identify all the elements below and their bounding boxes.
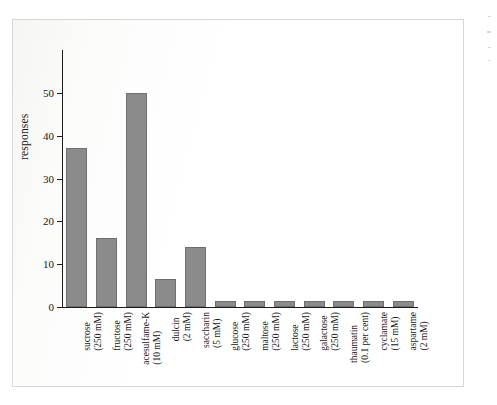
- category-dose: (250 mM): [330, 312, 341, 351]
- category-name: acesulfame-K: [141, 312, 152, 365]
- y-axis-tick-label: 20: [43, 216, 54, 227]
- category-dose: (250 mM): [241, 312, 252, 351]
- x-axis-category-label: aspartame(2 mM): [408, 312, 429, 351]
- bar: [304, 301, 325, 307]
- bar: [333, 301, 354, 307]
- category-dose: (2 mM): [419, 312, 430, 351]
- category-name: galactose: [319, 312, 330, 351]
- x-axis-category-label: saccharin(5 mM): [201, 312, 222, 348]
- x-axis-line: [62, 307, 418, 308]
- category-dose: (2 mM): [181, 312, 192, 341]
- category-dose: (250 mM): [300, 312, 311, 351]
- y-axis-tick-mark: [57, 136, 62, 137]
- y-axis-tick-label: 30: [43, 173, 54, 184]
- x-axis-category-label: acesulfame-K(10 mM): [141, 312, 162, 365]
- y-axis-tick-mark: [57, 179, 62, 180]
- y-axis-tick-mark: [57, 307, 62, 308]
- bar: [185, 247, 206, 307]
- y-axis-tick-label: 0: [49, 302, 55, 313]
- category-name: fructose: [112, 312, 123, 351]
- y-axis-tick-label: 10: [43, 259, 54, 270]
- category-dose: (250 mM): [270, 312, 281, 351]
- bar: [126, 93, 147, 307]
- scan-artifact-4: [488, 60, 490, 61]
- x-axis-category-label: lactose(250 mM): [290, 312, 311, 351]
- bar: [66, 148, 87, 307]
- bar: [274, 301, 295, 307]
- x-axis-category-label: thaumatin(0.1 per cent): [349, 312, 370, 363]
- category-name: cyclamate: [379, 312, 390, 351]
- category-name: lactose: [290, 312, 301, 351]
- category-dose: (0.1 per cent): [359, 312, 370, 363]
- x-axis-category-label: galactose(250 mM): [319, 312, 340, 351]
- category-dose: (15 mM): [389, 312, 400, 351]
- category-name: aspartame: [408, 312, 419, 351]
- bar: [393, 301, 414, 307]
- category-dose: (250 mM): [122, 312, 133, 351]
- x-axis-category-label: glucose(250 mM): [230, 312, 251, 351]
- bar: [363, 301, 384, 307]
- category-name: dulcin: [171, 312, 182, 341]
- bar: [96, 238, 117, 307]
- y-axis-tick-label: 50: [43, 87, 54, 98]
- x-axis-category-label: dulcin(2 mM): [171, 312, 192, 341]
- bar: [244, 301, 265, 307]
- scan-artifact-2: [487, 31, 491, 33]
- category-name: sucrose: [82, 312, 93, 351]
- x-axis-category-label: sucrose(250 mM): [82, 312, 103, 351]
- category-name: glucose: [230, 312, 241, 351]
- plot-area: 01020304050: [62, 50, 418, 307]
- figure-page: responses 01020304050 sucrose(250 mM)fru…: [0, 0, 497, 405]
- category-name: thaumatin: [349, 312, 360, 363]
- x-axis-category-label: cyclamate(15 mM): [379, 312, 400, 351]
- category-name: saccharin: [201, 312, 212, 348]
- y-axis-tick-mark: [57, 93, 62, 94]
- scan-artifact-1: [488, 16, 491, 17]
- bar: [155, 279, 176, 307]
- scan-artifact-3: [488, 47, 491, 48]
- bar: [215, 301, 236, 307]
- category-name: maltose: [260, 312, 271, 351]
- category-dose: (10 mM): [152, 312, 163, 365]
- category-dose: (250 mM): [92, 312, 103, 351]
- y-axis-tick-label: 40: [43, 130, 54, 141]
- y-axis-tick-mark: [57, 264, 62, 265]
- y-axis-tick-mark: [57, 221, 62, 222]
- category-dose: (5 mM): [211, 312, 222, 348]
- x-axis-category-label: maltose(250 mM): [260, 312, 281, 351]
- y-axis-title: responses: [18, 113, 30, 160]
- x-axis-category-label: fructose(250 mM): [112, 312, 133, 351]
